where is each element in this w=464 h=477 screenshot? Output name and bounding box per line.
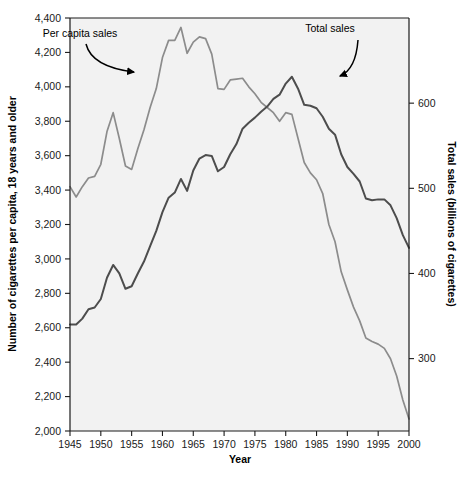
left-tick-label: 3,800	[35, 115, 61, 127]
left-tick-label: 4,400	[35, 12, 61, 24]
right-tick-label: 600	[418, 97, 436, 109]
bottom-tick-label: 1985	[305, 438, 329, 450]
cigarette-sales-line-chart: 2,0002,2002,4002,6002,8003,0003,2003,400…	[0, 0, 464, 477]
plot-background	[70, 18, 409, 431]
bottom-tick-label: 1970	[212, 438, 236, 450]
bottom-tick-label: 1950	[89, 438, 113, 450]
left-tick-label: 2,000	[35, 425, 61, 437]
left-tick-label: 3,400	[35, 184, 61, 196]
left-tick-label: 4,200	[35, 46, 61, 58]
bottom-tick-label: 1945	[58, 438, 82, 450]
right-tick-label: 300	[418, 352, 436, 364]
annotation-label-0: Per capita sales	[43, 27, 118, 39]
annotation-label-1: Total sales	[305, 22, 355, 34]
left-tick-label: 2,400	[35, 356, 61, 368]
left-tick-label: 3,200	[35, 218, 61, 230]
left-tick-label: 2,800	[35, 287, 61, 299]
x-axis-label: Year	[229, 453, 251, 465]
bottom-tick-label: 1995	[367, 438, 391, 450]
y-axis-label-left: Number of cigarettes per capita, 18 year…	[6, 96, 18, 352]
left-tick-label: 2,200	[35, 390, 61, 402]
bottom-tick-label: 1980	[274, 438, 298, 450]
right-tick-label: 500	[418, 182, 436, 194]
bottom-tick-label: 1975	[243, 438, 267, 450]
bottom-tick-label: 1990	[336, 438, 360, 450]
y-axis-label-right: Total sales (billions of cigarettes)	[446, 141, 458, 307]
bottom-tick-label: 2000	[397, 438, 421, 450]
bottom-tick-label: 1955	[120, 438, 144, 450]
chart-page: 2,0002,2002,4002,6002,8003,0003,2003,400…	[0, 0, 464, 477]
bottom-tick-label: 1965	[182, 438, 206, 450]
left-tick-label: 3,000	[35, 253, 61, 265]
left-tick-label: 2,600	[35, 321, 61, 333]
left-tick-label: 3,600	[35, 149, 61, 161]
left-tick-label: 4,000	[35, 80, 61, 92]
bottom-tick-label: 1960	[151, 438, 175, 450]
right-tick-label: 400	[418, 267, 436, 279]
